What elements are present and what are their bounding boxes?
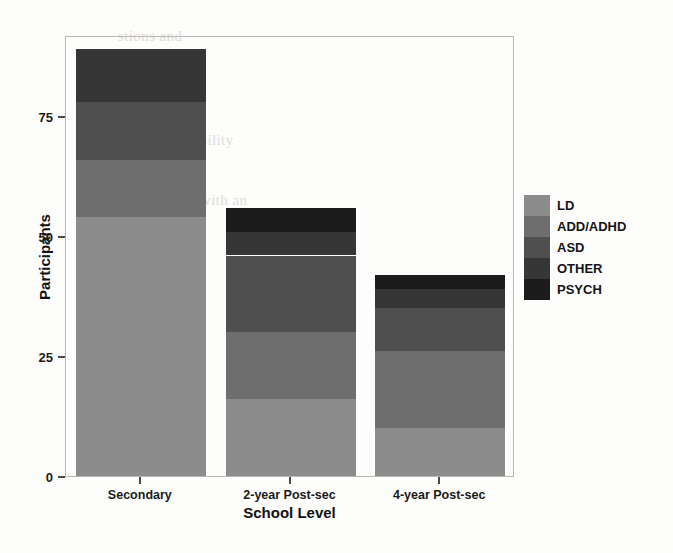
- x-tick-label-2-year-post-sec: 2-year Post-sec: [243, 488, 335, 502]
- y-tick-label: 50: [39, 230, 53, 245]
- bar-4-year-post-sec[interactable]: [375, 35, 505, 476]
- y-tick-mark: [58, 356, 65, 358]
- x-tick-mark: [438, 477, 440, 484]
- x-axis: Secondary2-year Post-sec4-year Post-sec: [65, 477, 514, 507]
- legend-label: OTHER: [557, 261, 603, 276]
- legend-swatch-asd: [524, 237, 550, 258]
- bar-secondary[interactable]: [76, 35, 206, 476]
- chart-figure: stions and of the on a special ns is a t…: [0, 0, 673, 553]
- bar-segment-other[interactable]: [375, 289, 505, 308]
- bar-segment-add-adhd[interactable]: [375, 351, 505, 428]
- legend-swatch-other: [524, 258, 550, 279]
- x-tick-mark: [289, 477, 291, 484]
- bar-segment-psych[interactable]: [375, 275, 505, 289]
- x-tick-label-secondary: Secondary: [108, 488, 172, 502]
- x-axis-label: School Level: [65, 504, 514, 521]
- bar-segment-ld[interactable]: [76, 217, 206, 476]
- x-tick-label-4-year-post-sec: 4-year Post-sec: [393, 488, 485, 502]
- legend-swatch-add-adhd: [524, 216, 550, 237]
- plot-panel: [65, 36, 514, 477]
- y-tick-label: 0: [46, 470, 53, 485]
- legend-swatch-psych: [524, 279, 550, 300]
- y-tick-label: 25: [39, 350, 53, 365]
- plot-area: [66, 37, 513, 476]
- legend: LDADD/ADHDASDOTHERPSYCH: [524, 195, 626, 300]
- legend-item-add-adhd[interactable]: ADD/ADHD: [524, 216, 626, 237]
- bar-segment-asd[interactable]: [375, 308, 505, 351]
- legend-item-ld[interactable]: LD: [524, 195, 626, 216]
- legend-swatch-ld: [524, 195, 550, 216]
- bar-segment-add-adhd[interactable]: [76, 160, 206, 218]
- bar-segment-other[interactable]: [76, 49, 206, 102]
- y-tick-mark: [58, 236, 65, 238]
- bar-segment-add-adhd[interactable]: [226, 332, 356, 399]
- bar-segment-psych[interactable]: [226, 208, 356, 232]
- bar-segment-asd[interactable]: [76, 102, 206, 160]
- y-tick-mark: [58, 476, 65, 478]
- legend-item-psych[interactable]: PSYCH: [524, 279, 626, 300]
- legend-label: ASD: [557, 240, 584, 255]
- y-axis: 0255075: [26, 36, 65, 477]
- legend-label: PSYCH: [557, 282, 602, 297]
- legend-label: LD: [557, 198, 574, 213]
- x-tick-mark: [139, 477, 141, 484]
- bar-segment-other[interactable]: [226, 232, 356, 256]
- bar-segment-asd[interactable]: [226, 256, 356, 333]
- bar-segment-ld[interactable]: [375, 428, 505, 476]
- legend-item-asd[interactable]: ASD: [524, 237, 626, 258]
- bar-2-year-post-sec[interactable]: [226, 35, 356, 476]
- y-tick-label: 75: [39, 110, 53, 125]
- bar-segment-ld[interactable]: [226, 399, 356, 476]
- y-tick-mark: [58, 116, 65, 118]
- legend-label: ADD/ADHD: [557, 219, 626, 234]
- legend-item-other[interactable]: OTHER: [524, 258, 626, 279]
